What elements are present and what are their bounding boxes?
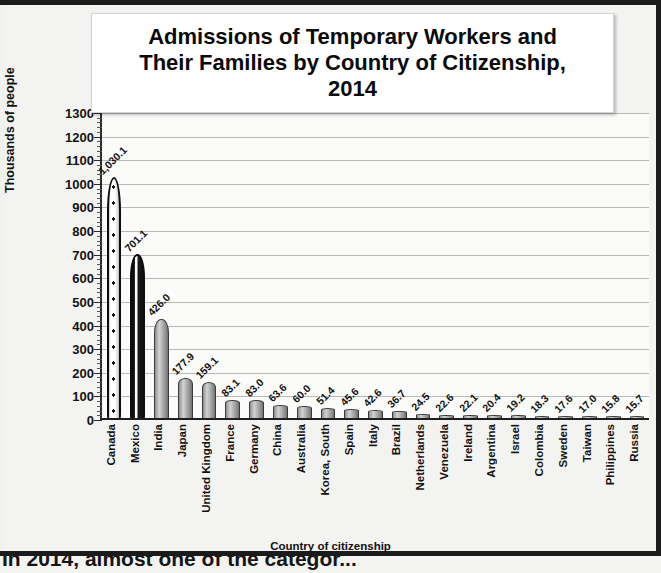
x-axis-category-label: Ireland <box>462 424 474 462</box>
bar-value-label: 701.1 <box>122 227 149 254</box>
y-axis-tick-label: 1000 <box>42 176 94 191</box>
bar-slot[interactable]: 22.6 <box>439 113 454 420</box>
x-axis-category-label: Philippines <box>604 424 616 485</box>
bar-value-label: 51.4 <box>314 384 337 407</box>
bar-value-label: 15.8 <box>599 392 622 415</box>
y-axis-tick-label: 800 <box>42 224 94 239</box>
bar-slot[interactable]: 24.5 <box>416 113 431 420</box>
plot-area: 1,030.1701.1426.0177.9159.183.183.063.66… <box>100 113 649 420</box>
bar-slot[interactable]: 19.2 <box>511 113 526 420</box>
bar-value-label: 15.7 <box>623 392 646 415</box>
bar[interactable]: 426.0 <box>154 319 169 420</box>
bar-slot[interactable]: 426.0 <box>154 113 169 420</box>
bar-slot[interactable]: 1,030.1 <box>107 113 122 420</box>
bar[interactable]: 701.1 <box>130 254 145 420</box>
y-axis-tick-major <box>94 113 102 114</box>
x-axis-category-label: Italy <box>367 424 379 447</box>
bar-value-label: 36.7 <box>385 387 408 410</box>
bar[interactable]: 177.9 <box>178 378 193 420</box>
bar-slot[interactable]: 701.1 <box>130 113 145 420</box>
bar-series: 1,030.1701.1426.0177.9159.183.183.063.66… <box>102 113 649 420</box>
x-axis-category-label: Spain <box>343 424 355 455</box>
bar-slot[interactable]: 177.9 <box>178 113 193 420</box>
bar-value-label: 83.1 <box>219 376 242 399</box>
bar-slot[interactable]: 20.4 <box>487 113 502 420</box>
y-axis-tick-major <box>94 326 102 327</box>
bar-slot[interactable]: 15.7 <box>630 113 645 420</box>
x-axis-line <box>102 418 649 420</box>
y-axis-tick-major <box>94 160 102 161</box>
bar-slot[interactable]: 17.0 <box>582 113 597 420</box>
bar-value-label: 159.1 <box>193 354 220 381</box>
chart-title-line: 2014 <box>328 76 377 101</box>
x-axis-category-label: France <box>224 424 236 462</box>
bar-value-label: 45.6 <box>337 385 360 408</box>
x-axis-category-label: Taiwan <box>581 424 593 462</box>
bar-value-label: 22.1 <box>456 391 479 414</box>
bar-value-label: 17.0 <box>575 392 598 415</box>
bar-slot[interactable]: 60.0 <box>297 113 312 420</box>
y-axis-tick-labels: 0100200300400500600700800900100011001200… <box>38 113 94 420</box>
x-axis-title: Country of citizenship <box>5 540 656 552</box>
x-axis-category-label: Netherlands <box>414 424 426 490</box>
bar-value-label: 24.5 <box>409 390 432 413</box>
bar-value-label: 83.0 <box>242 376 265 399</box>
y-axis-tick-major <box>94 137 102 138</box>
x-axis-category-label: Colombia <box>533 424 545 476</box>
bar-slot[interactable]: 17.6 <box>558 113 573 420</box>
y-axis-tick-label: 500 <box>42 294 94 309</box>
page-canvas: Thousands of people 01002003004005006007… <box>0 0 661 573</box>
y-axis-tick-major <box>94 184 102 185</box>
bar[interactable]: 1,030.1 <box>107 177 122 420</box>
y-axis-tick-major <box>94 373 102 374</box>
y-axis-tick-label: 1100 <box>42 153 94 168</box>
bar-value-label: 426.0 <box>146 291 173 318</box>
bar-slot[interactable]: 18.3 <box>535 113 550 420</box>
y-axis-tick-label: 0 <box>42 413 94 428</box>
x-axis-category-label: Argentina <box>485 424 497 478</box>
bar-slot[interactable]: 51.4 <box>321 113 336 420</box>
y-axis-tick-label: 100 <box>42 389 94 404</box>
x-axis-category-label: Russia <box>628 424 640 462</box>
bar-slot[interactable]: 83.0 <box>249 113 264 420</box>
x-axis-category-label: Korea, South <box>319 424 331 496</box>
y-axis-tick-major <box>94 420 102 421</box>
chart-title-line: Their Families by Country of Citizenship… <box>139 50 566 75</box>
bar-value-label: 18.3 <box>528 392 551 415</box>
y-axis-tick-label: 900 <box>42 200 94 215</box>
bar-slot[interactable]: 22.1 <box>463 113 478 420</box>
y-axis-tick-major <box>94 231 102 232</box>
y-axis-tick-label: 1200 <box>42 129 94 144</box>
x-axis-category-label: Israel <box>509 424 521 454</box>
x-axis-category-label: China <box>271 424 283 456</box>
y-axis-tick-major <box>94 302 102 303</box>
bar-value-label: 42.6 <box>361 386 384 409</box>
y-axis-tick-label: 200 <box>42 365 94 380</box>
chart-figure: Thousands of people 01002003004005006007… <box>5 5 656 551</box>
x-axis-category-label: Germany <box>248 424 260 474</box>
y-axis-tick-label: 400 <box>42 318 94 333</box>
bar-slot[interactable]: 159.1 <box>202 113 217 420</box>
y-axis-tick-major <box>94 396 102 397</box>
y-axis-tick-label: 600 <box>42 271 94 286</box>
page-rule-right <box>656 0 661 556</box>
bar-slot[interactable]: 83.1 <box>225 113 240 420</box>
y-axis-tick-label: 300 <box>42 342 94 357</box>
bar-slot[interactable]: 15.8 <box>606 113 621 420</box>
bar-slot[interactable]: 36.7 <box>392 113 407 420</box>
chart-title-line: Admissions of Temporary Workers and <box>148 24 557 49</box>
bar-slot[interactable]: 63.6 <box>273 113 288 420</box>
bar-value-label: 60.0 <box>290 382 313 405</box>
bar-slot[interactable]: 45.6 <box>344 113 359 420</box>
x-axis-category-label: Brazil <box>390 424 402 455</box>
bar-value-label: 177.9 <box>169 350 196 377</box>
y-axis-tick-major <box>94 278 102 279</box>
bar-value-label: 63.6 <box>266 381 289 404</box>
x-axis-category-label: Mexico <box>129 424 141 463</box>
bar-slot[interactable]: 42.6 <box>368 113 383 420</box>
chart-title-box: Admissions of Temporary Workers andTheir… <box>91 13 614 113</box>
bar-value-label: 19.2 <box>504 392 527 415</box>
bar-value-label: 20.4 <box>480 391 503 414</box>
bar[interactable]: 159.1 <box>202 382 217 420</box>
chart-title: Admissions of Temporary Workers andTheir… <box>129 24 576 102</box>
